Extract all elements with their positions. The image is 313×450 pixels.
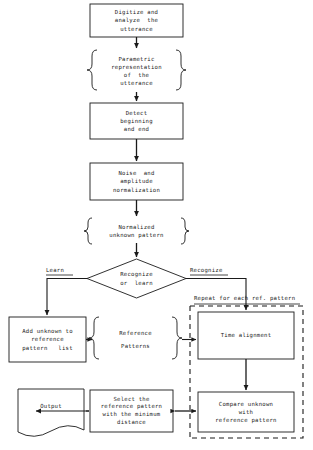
digitize-node[interactable] [90, 4, 183, 37]
decision-node[interactable] [87, 259, 186, 298]
parametric-node[interactable] [87, 48, 186, 92]
detect-node[interactable] [90, 103, 183, 139]
select-node[interactable] [90, 390, 173, 432]
reference-patterns-node[interactable] [89, 317, 182, 362]
edge-label-learn: Learn [46, 267, 64, 273]
add-unknown-node[interactable] [9, 317, 86, 362]
normalized-node[interactable] [84, 216, 189, 244]
edge-label-repeat: Repeat for each ref. pattern [194, 295, 295, 301]
edge-label-recognize: Recognize [190, 267, 223, 273]
time-alignment-node[interactable] [198, 312, 294, 359]
flowchart-canvas: Digitize and analyze the utterance Param… [0, 0, 313, 450]
arrow-learn-branch [47, 279, 87, 316]
output-node[interactable] [18, 389, 84, 432]
noise-node[interactable] [90, 163, 183, 200]
compare-node[interactable] [198, 392, 294, 432]
